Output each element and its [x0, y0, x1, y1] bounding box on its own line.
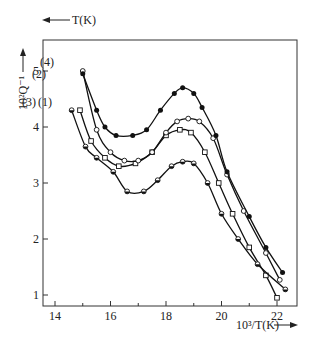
data-point [247, 245, 252, 250]
data-point [180, 85, 185, 90]
series-label-3: (3) [22, 95, 36, 109]
series-line [80, 110, 277, 298]
data-point [114, 133, 119, 138]
data-point [108, 150, 113, 155]
x-axis-label: 10³/T(K) [236, 318, 298, 332]
data-point [122, 158, 127, 163]
data-point [136, 158, 141, 163]
data-point [172, 91, 177, 96]
y-tick-label: 1 [33, 288, 39, 302]
data-point [277, 277, 282, 282]
data-point [158, 108, 163, 113]
top-axis-title: T(K) [72, 13, 96, 27]
data-point [280, 270, 285, 275]
data-point [94, 108, 99, 113]
series-line [72, 110, 286, 289]
data-point [216, 181, 221, 186]
data-point [200, 105, 205, 110]
data-point [191, 91, 196, 96]
data-point [275, 296, 280, 301]
top-axis-label: T(K) [42, 13, 96, 27]
x-axis-title: 10³/T(K) [236, 318, 279, 332]
data-point [247, 214, 252, 219]
data-point [197, 119, 202, 124]
x-tick-label: 14 [49, 309, 61, 323]
data-point [189, 130, 194, 135]
series-label-2: (2) [32, 67, 46, 81]
data-point [144, 127, 149, 132]
data-point [225, 169, 230, 174]
data-point [102, 125, 107, 130]
series-1 [78, 108, 280, 300]
data-point [94, 127, 99, 132]
series-label-1: (1) [38, 95, 52, 109]
series-group [69, 69, 287, 301]
x-tick-label: 16 [105, 309, 117, 323]
data-point [178, 128, 183, 133]
data-point [230, 212, 235, 217]
chart: 141618202212345700600500 T(K) 10²Q⁻¹ 10³… [0, 0, 315, 346]
data-point [164, 130, 169, 135]
data-point [80, 71, 85, 76]
series-label-4: (4) [40, 55, 54, 69]
data-point [117, 164, 122, 169]
series-2 [80, 69, 282, 283]
data-point [78, 108, 83, 113]
series-3 [69, 108, 287, 292]
x-tick-label: 18 [160, 309, 172, 323]
data-point [103, 156, 108, 161]
data-point [203, 150, 208, 155]
y-tick-label: 4 [33, 120, 39, 134]
data-point [150, 150, 155, 155]
data-point [175, 119, 180, 124]
data-point [130, 133, 135, 138]
x-tick-label: 20 [216, 309, 228, 323]
data-point [89, 139, 94, 144]
data-point [263, 245, 268, 250]
data-point [213, 133, 218, 138]
y-tick-label: 2 [33, 232, 39, 246]
data-point [186, 116, 191, 121]
y-tick-label: 3 [33, 176, 39, 190]
